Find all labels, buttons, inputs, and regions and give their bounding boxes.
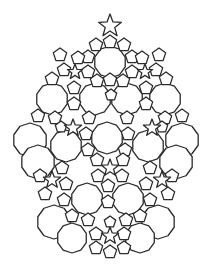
decagon <box>72 183 102 215</box>
pentagon <box>89 227 102 240</box>
pentagon <box>81 213 94 226</box>
pentagon <box>45 72 58 85</box>
pentagon <box>103 245 116 258</box>
decagon <box>37 83 67 115</box>
pentagon <box>53 48 66 61</box>
pentagon <box>71 51 84 64</box>
pentagon <box>117 38 130 51</box>
top-star <box>99 14 122 36</box>
decagon <box>112 83 142 115</box>
pentagon-tree-tiling <box>0 0 211 269</box>
pentagon <box>103 35 116 48</box>
pentagon <box>125 65 138 78</box>
pentagon <box>119 213 132 226</box>
pentagon <box>139 177 152 190</box>
pentagon <box>143 193 156 206</box>
star-shape <box>137 64 152 78</box>
pentagon <box>175 109 188 122</box>
pentagon <box>143 161 156 174</box>
pentagon <box>55 161 68 174</box>
pentagon <box>81 65 94 78</box>
pentagon <box>91 169 104 182</box>
top-star-icon <box>99 14 122 36</box>
pentagon <box>38 187 51 200</box>
pentagon <box>135 51 148 64</box>
pentagon <box>59 177 72 190</box>
pentagon <box>67 97 80 110</box>
decagon <box>150 83 180 115</box>
pentagon <box>67 81 80 94</box>
decagon <box>92 122 122 154</box>
decagon <box>80 83 110 115</box>
outer-lobe-decagon <box>58 223 87 253</box>
pentagon <box>161 187 174 200</box>
pentagon <box>139 81 152 94</box>
pentagon <box>152 48 165 61</box>
pentagon <box>101 179 114 192</box>
pentagon <box>89 38 102 51</box>
star-shape <box>67 64 82 78</box>
pentagon <box>115 169 128 182</box>
pentagon <box>57 193 70 206</box>
pentagon <box>121 127 134 140</box>
pentagon <box>79 127 92 140</box>
pentagon <box>89 241 102 254</box>
tiling-figure <box>0 0 211 269</box>
pentagon <box>104 216 115 227</box>
star-shape <box>101 227 118 243</box>
